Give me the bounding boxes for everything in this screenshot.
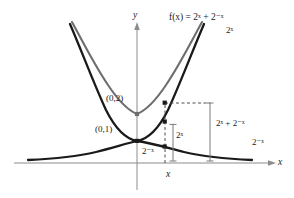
x-axis-label: x (278, 158, 282, 168)
x-axis (14, 160, 276, 166)
y-axis (134, 22, 140, 190)
y-axis-label: y (133, 11, 137, 21)
point-marker-sum (163, 101, 167, 105)
point-label-0-2: (0,2) (106, 94, 123, 103)
function-title-label: f(x) = 2ˣ + 2⁻ˣ (169, 13, 223, 23)
bracket-label-sum: 2ˣ + 2⁻ˣ (216, 119, 245, 128)
curve-label-2negx-right: 2⁻ˣ (252, 138, 264, 147)
bracket-label-2x: 2ˣ (176, 131, 183, 140)
point-marker-2x (163, 119, 167, 123)
point-marker-sum-minimum (135, 112, 139, 116)
x-sample-tick-label: x (166, 170, 170, 180)
bracket-label-2negx: 2⁻ˣ (142, 147, 154, 156)
point-label-0-1: (0,1) (95, 125, 112, 134)
point-marker-origin-intersection (135, 139, 139, 143)
plot-canvas (0, 0, 294, 198)
point-marker-2negx (163, 144, 167, 148)
bracket-sum (207, 103, 214, 161)
exponential-sum-figure: f(x) = 2ˣ + 2⁻ˣ 2ˣ y x (0,2) (0,1) 2ˣ + … (0, 0, 294, 198)
curve-label-2x-top: 2ˣ (226, 26, 233, 35)
